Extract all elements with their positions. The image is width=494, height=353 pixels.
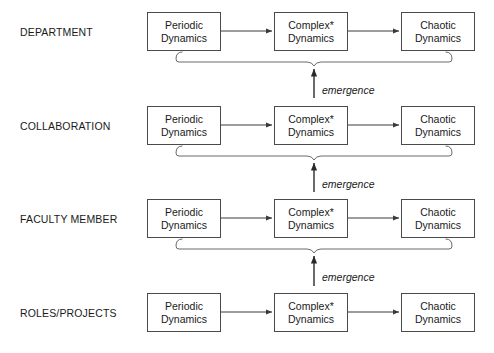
brace-under-roles-row — [176, 239, 452, 253]
node-line-secondary: Dynamics — [288, 313, 334, 326]
node-complex-dynamics-faculty[interactable]: Complex* Dynamics — [274, 199, 348, 238]
node-line-primary: Periodic — [165, 113, 203, 126]
node-line-primary: Chaotic — [420, 300, 456, 313]
node-line-secondary: Dynamics — [161, 313, 207, 326]
node-line-secondary: Dynamics — [288, 219, 334, 232]
node-line-secondary: Dynamics — [415, 32, 461, 45]
node-chaotic-dynamics-roles[interactable]: Chaotic Dynamics — [401, 293, 475, 332]
node-line-secondary: Dynamics — [161, 32, 207, 45]
emergence-label-department: emergence — [322, 85, 375, 96]
node-line-secondary: Dynamics — [288, 32, 334, 45]
row-label-faculty-member: FACULTY MEMBER — [20, 214, 117, 225]
node-line-secondary: Dynamics — [161, 219, 207, 232]
node-line-secondary: Dynamics — [415, 126, 461, 139]
node-periodic-dynamics-department[interactable]: Periodic Dynamics — [147, 12, 221, 51]
node-complex-dynamics-collaboration[interactable]: Complex* Dynamics — [274, 106, 348, 145]
node-line-primary: Periodic — [165, 19, 203, 32]
node-complex-dynamics-roles[interactable]: Complex* Dynamics — [274, 293, 348, 332]
brace-under-collaboration-row — [176, 52, 452, 66]
node-chaotic-dynamics-collaboration[interactable]: Chaotic Dynamics — [401, 106, 475, 145]
node-chaotic-dynamics-department[interactable]: Chaotic Dynamics — [401, 12, 475, 51]
node-line-primary: Complex* — [288, 206, 334, 219]
node-periodic-dynamics-collaboration[interactable]: Periodic Dynamics — [147, 106, 221, 145]
node-line-secondary: Dynamics — [415, 313, 461, 326]
node-line-primary: Complex* — [288, 19, 334, 32]
node-line-primary: Complex* — [288, 113, 334, 126]
node-periodic-dynamics-roles[interactable]: Periodic Dynamics — [147, 293, 221, 332]
diagram-canvas: DEPARTMENT COLLABORATION FACULTY MEMBER … — [0, 0, 494, 353]
node-periodic-dynamics-faculty[interactable]: Periodic Dynamics — [147, 199, 221, 238]
node-line-primary: Complex* — [288, 300, 334, 313]
node-line-primary: Chaotic — [420, 113, 456, 126]
node-line-secondary: Dynamics — [161, 126, 207, 139]
node-line-secondary: Dynamics — [288, 126, 334, 139]
row-label-collaboration: COLLABORATION — [20, 121, 110, 132]
node-line-primary: Chaotic — [420, 206, 456, 219]
row-label-department: DEPARTMENT — [20, 27, 93, 38]
brace-under-faculty-row — [176, 146, 452, 160]
row-label-roles-projects: ROLES/PROJECTS — [20, 308, 117, 319]
node-line-primary: Chaotic — [420, 19, 456, 32]
node-line-primary: Periodic — [165, 206, 203, 219]
node-line-primary: Periodic — [165, 300, 203, 313]
node-chaotic-dynamics-faculty[interactable]: Chaotic Dynamics — [401, 199, 475, 238]
emergence-label-faculty: emergence — [322, 272, 375, 283]
node-complex-dynamics-department[interactable]: Complex* Dynamics — [274, 12, 348, 51]
emergence-label-collaboration: emergence — [322, 179, 375, 190]
node-line-secondary: Dynamics — [415, 219, 461, 232]
